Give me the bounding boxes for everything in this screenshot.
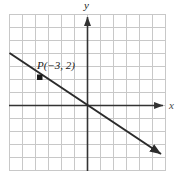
graph-canvas <box>0 0 176 180</box>
x-axis-label: x <box>169 99 174 111</box>
y-axis-label: y <box>84 0 89 11</box>
point-marker-p <box>37 75 43 81</box>
point-label-p: P(−3, 2) <box>37 59 75 71</box>
coordinate-graph-figure: y x P(−3, 2) <box>0 0 176 180</box>
